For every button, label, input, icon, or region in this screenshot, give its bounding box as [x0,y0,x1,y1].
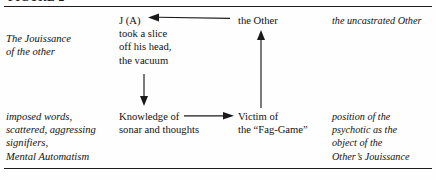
bottom-col1-imposed-words: imposed words, scattered, aggressing sig… [6,110,96,163]
arrow-left-icon [148,13,232,23]
top-col3-the-other: the Other [238,14,278,27]
text-line: the “Fag-Game” [238,123,308,136]
top-rule [4,6,432,7]
text-line: The Jouissance [6,32,71,45]
arrow-down-icon [139,74,149,106]
bottom-col4-position-of-psychotic: position of the psychotic as the object … [332,110,409,163]
text-line: the vacuum [119,54,171,67]
text-line: Mental Automatism [6,150,96,163]
text-line: signifiers, [6,136,96,149]
arrow-up-icon [256,30,266,108]
text-line: Victim of [238,110,308,123]
top-col1-jouissance-of-the-other: The Jouissance of the other [6,32,71,58]
figure-page: FIGURE 2 The Jouissance of the other J (… [0,0,436,180]
text-line: the Other [238,14,278,27]
text-line: position of the [332,110,409,123]
text-line: off his head, [119,40,171,53]
arrow-right-icon [184,111,234,121]
text-line: took a slice [119,27,171,40]
text-line: sonar and thoughts [119,123,199,136]
text-line: object of the [332,136,409,149]
bottom-col3-victim-of-fag-game: Victim of the “Fag-Game” [238,110,308,136]
text-line: Other’s Jouissance [332,150,409,163]
text-line: scattered, aggressing [6,123,96,136]
bottom-rule [4,168,432,169]
running-head: FIGURE 2 [8,0,65,3]
text-line: psychotic as the [332,123,409,136]
text-line: the uncastrated Other [332,14,421,27]
text-line: of the other [6,45,71,58]
text-line: imposed words, [6,110,96,123]
top-col4-uncastrated-other: the uncastrated Other [332,14,421,27]
